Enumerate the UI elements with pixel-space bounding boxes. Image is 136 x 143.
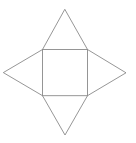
triangle-face-bottom bbox=[43, 96, 88, 135]
triangle-face-top bbox=[43, 9, 88, 49]
pyramid-net-diagram bbox=[0, 0, 136, 143]
triangle-face-left bbox=[3, 50, 42, 96]
square-base bbox=[43, 50, 88, 96]
triangle-face-right bbox=[88, 50, 127, 96]
net-svg bbox=[0, 0, 136, 143]
